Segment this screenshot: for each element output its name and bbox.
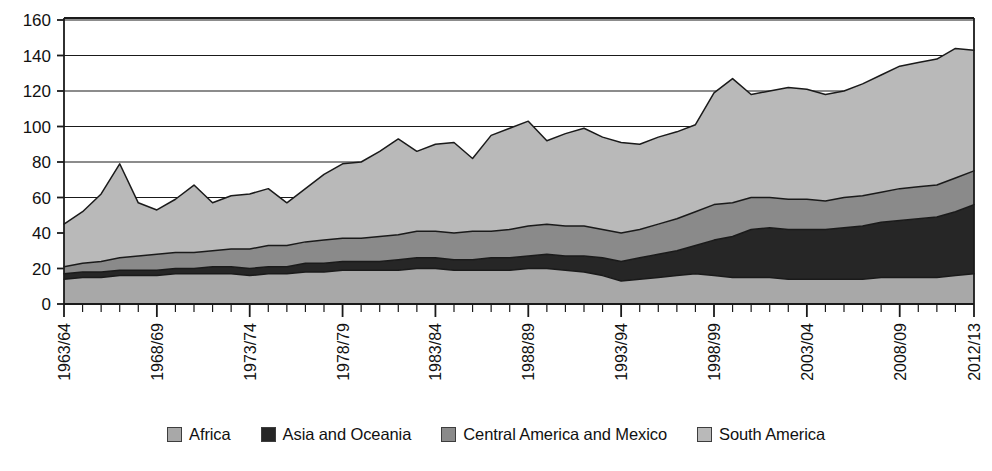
x-axis-tick-label: 2008/09 [892,323,909,381]
x-axis-tick-label: 1978/79 [335,323,352,381]
x-axis-tick-label: 1968/69 [149,323,166,381]
y-axis-tick-label: 160 [23,11,51,30]
legend-item[interactable]: Central America and Mexico [441,426,667,443]
y-axis-tick-label: 40 [32,224,51,243]
y-axis-tick-label: 120 [23,82,51,101]
y-axis-tick-label: 100 [23,118,51,137]
legend-swatch-icon [441,427,456,442]
legend-swatch-icon [261,427,276,442]
legend-item-label: South America [719,426,825,443]
legend-item-label: Central America and Mexico [463,426,667,443]
chart-page: 020406080100120140160 1963/641968/691973… [0,0,992,471]
y-axis-tick-labels: 020406080100120140160 [23,11,51,314]
x-axis-tick-label: 1988/89 [520,323,537,381]
stacked-area-chart: 020406080100120140160 1963/641968/691973… [0,0,992,400]
legend-swatch-icon [697,427,712,442]
x-axis-tick-label: 2012/13 [966,323,983,381]
legend-item[interactable]: Asia and Oceania [261,426,412,443]
x-axis-tick-label: 1993/94 [613,323,630,381]
x-axis-tick-label: 1998/99 [706,323,723,381]
y-axis-tick-label: 140 [23,47,51,66]
x-axis-tick-label: 1973/74 [242,323,259,381]
x-axis-ticks [64,304,974,317]
y-axis-tick-label: 60 [32,189,51,208]
x-axis-tick-label: 2003/04 [799,323,816,381]
legend-item[interactable]: Africa [167,426,231,443]
chart-canvas: 020406080100120140160 1963/641968/691973… [0,0,992,400]
legend-swatch-icon [167,427,182,442]
x-axis-tick-label: 1983/84 [427,323,444,381]
series-areas [64,48,974,304]
y-axis-tick-label: 20 [32,260,51,279]
x-axis-tick-labels: 1963/641968/691973/741978/791983/841988/… [56,323,983,381]
legend-item[interactable]: South America [697,426,825,443]
chart-legend: AfricaAsia and OceaniaCentral America an… [0,414,992,454]
legend-item-label: Africa [189,426,231,443]
y-axis-tick-label: 80 [32,153,51,172]
legend-item-label: Asia and Oceania [283,426,412,443]
y-axis-ticks [57,20,64,304]
y-axis-tick-label: 0 [42,295,51,314]
x-axis-tick-label: 1963/64 [56,323,73,381]
